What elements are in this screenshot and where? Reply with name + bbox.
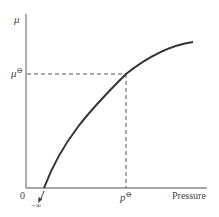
mu-standard-label: μ⊖: [11, 67, 23, 79]
y-axis-label: μ: [14, 14, 20, 25]
chemical-potential-chart: [0, 0, 219, 217]
origin-label: 0: [20, 191, 25, 201]
chemical-potential-curve: [44, 42, 193, 188]
neg-infinity-label: −∞: [31, 202, 41, 210]
standard-state-superscript: ⊖: [126, 190, 132, 199]
x-axis-label: Pressure: [172, 191, 206, 201]
standard-state-superscript: ⊖: [17, 66, 23, 75]
p-standard-label: p⊖: [120, 191, 132, 203]
